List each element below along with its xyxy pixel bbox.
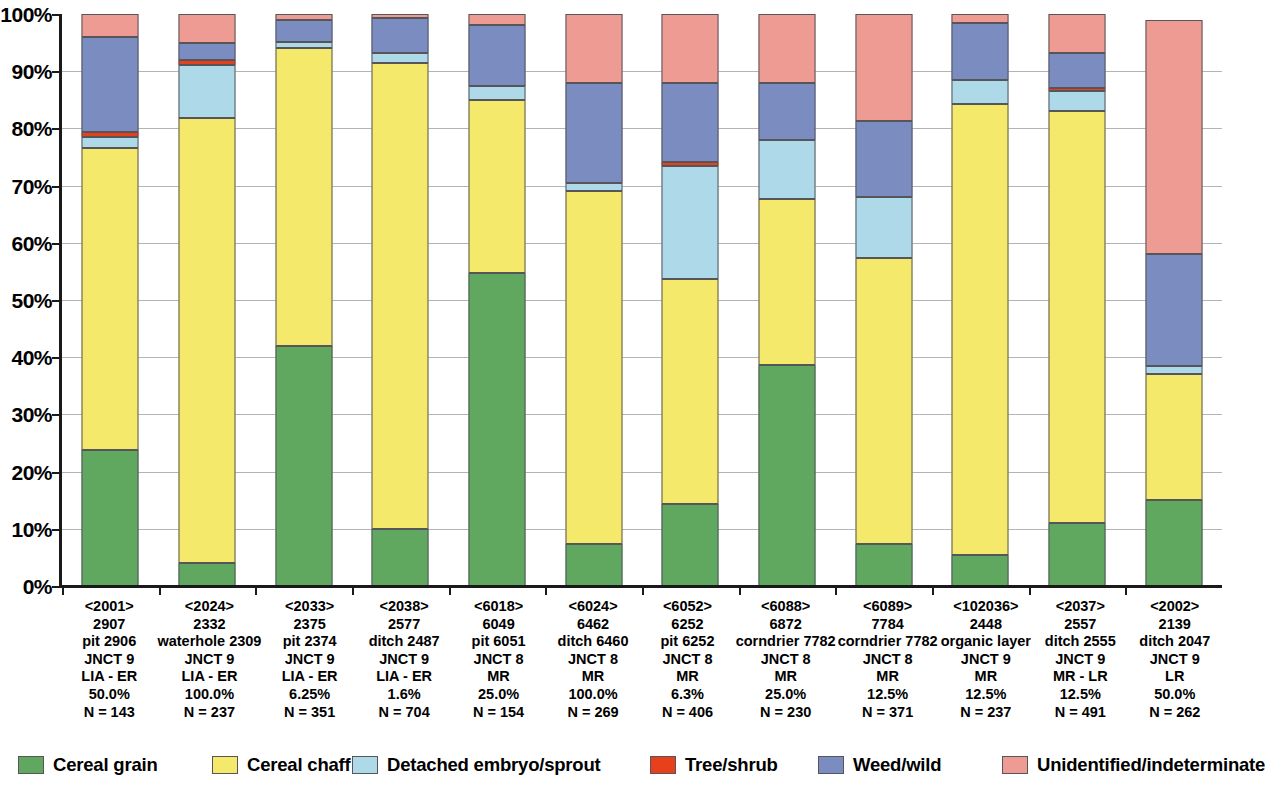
bar-slot xyxy=(642,14,739,586)
bar-segment[interactable] xyxy=(1145,254,1202,366)
y-tick-label: 0% xyxy=(23,576,52,597)
bar-segment[interactable] xyxy=(275,20,332,42)
bar-segment[interactable] xyxy=(1049,111,1106,523)
bar-segment[interactable] xyxy=(82,37,139,133)
bar-slot xyxy=(545,14,642,586)
bar-segment[interactable] xyxy=(82,450,139,586)
bar-segment[interactable] xyxy=(1145,500,1202,586)
bar-segment[interactable] xyxy=(565,14,622,83)
bar-segment[interactable] xyxy=(1145,374,1202,500)
bar-segment[interactable] xyxy=(179,118,236,564)
bar-segment[interactable] xyxy=(179,43,236,61)
x-axis-label-sample: <102036> xyxy=(940,598,1032,616)
bar-segment[interactable] xyxy=(82,137,139,148)
bar-segment[interactable] xyxy=(1145,20,1202,255)
bar-segment[interactable] xyxy=(179,14,236,43)
x-axis-label-fraction: 50.0% xyxy=(63,686,155,704)
x-axis-label-count: N = 230 xyxy=(736,704,836,722)
x-axis-label-context-number: 2577 xyxy=(358,616,450,634)
stacked-bar[interactable] xyxy=(179,14,236,586)
bar-segment[interactable] xyxy=(952,555,1009,586)
legend-label: Detached embryo/sprout xyxy=(387,754,601,776)
legend-item[interactable]: Weed/wild xyxy=(818,754,941,776)
bar-segment[interactable] xyxy=(372,63,429,530)
x-axis-label-feature: pit 6051 xyxy=(452,633,544,651)
bar-segment[interactable] xyxy=(179,65,236,118)
stacked-bar[interactable] xyxy=(565,14,622,586)
bar-segment[interactable] xyxy=(952,104,1009,554)
bar-segment[interactable] xyxy=(759,140,816,199)
bar-segment[interactable] xyxy=(372,18,429,53)
x-axis-label-period: LIA - ER xyxy=(63,668,155,686)
legend-item[interactable]: Tree/shrub xyxy=(650,754,778,776)
bar-segment[interactable] xyxy=(1049,53,1106,87)
bar-segment[interactable] xyxy=(1049,523,1106,586)
bar-segment[interactable] xyxy=(469,100,526,273)
stacked-bar[interactable] xyxy=(662,14,719,586)
bar-segment[interactable] xyxy=(1145,366,1202,375)
bar-slot xyxy=(255,14,352,586)
bar-segment[interactable] xyxy=(855,121,912,197)
bar-segment[interactable] xyxy=(275,48,332,345)
bar-segment[interactable] xyxy=(1049,91,1106,111)
bar-segment[interactable] xyxy=(469,273,526,586)
x-axis-label-feature: ditch 2555 xyxy=(1034,633,1126,651)
bar-segment[interactable] xyxy=(952,23,1009,80)
x-axis-label-fraction: 25.0% xyxy=(452,686,544,704)
stacked-bar[interactable] xyxy=(1049,14,1106,586)
bar-segment[interactable] xyxy=(82,14,139,37)
stacked-bar[interactable] xyxy=(82,14,139,586)
bar-segment[interactable] xyxy=(855,14,912,121)
bar-segment[interactable] xyxy=(759,14,816,83)
bar-segment[interactable] xyxy=(1049,14,1106,53)
bar-segment[interactable] xyxy=(179,563,236,586)
x-axis-label-period: MR xyxy=(452,668,544,686)
x-axis-label-context-number: 6872 xyxy=(736,616,836,634)
bar-segment[interactable] xyxy=(469,86,526,100)
x-axis-label-period: LIA - ER xyxy=(157,668,261,686)
bar-segment[interactable] xyxy=(565,544,622,586)
bar-segment[interactable] xyxy=(565,183,622,192)
stacked-bar[interactable] xyxy=(372,14,429,586)
bar-segment[interactable] xyxy=(662,504,719,586)
bar-segment[interactable] xyxy=(855,258,912,543)
stacked-bar[interactable] xyxy=(952,14,1009,586)
bar-segment[interactable] xyxy=(82,148,139,449)
x-axis-label-site: JNCT 8 xyxy=(736,651,836,669)
x-axis-label-count: N = 269 xyxy=(547,704,639,722)
x-axis-label-site: JNCT 9 xyxy=(1129,651,1221,669)
x-axis-label-sample: <6052> xyxy=(641,598,733,616)
bar-segment[interactable] xyxy=(855,197,912,258)
y-tick-label: 10% xyxy=(11,518,52,539)
bar-segment[interactable] xyxy=(662,166,719,279)
bar-segment[interactable] xyxy=(469,14,526,25)
bar-segment[interactable] xyxy=(565,191,622,543)
x-axis-label-feature: pit 2374 xyxy=(263,633,355,651)
bar-segment[interactable] xyxy=(952,80,1009,105)
legend-item[interactable]: Cereal grain xyxy=(18,754,158,776)
legend-item[interactable]: Detached embryo/sprout xyxy=(352,754,601,776)
stacked-bar[interactable] xyxy=(275,14,332,586)
y-tick-mark xyxy=(52,529,60,531)
bar-segment[interactable] xyxy=(662,279,719,504)
bar-segment[interactable] xyxy=(565,83,622,183)
stacked-bar[interactable] xyxy=(469,14,526,586)
bar-segment[interactable] xyxy=(759,365,816,586)
stacked-bar[interactable] xyxy=(1145,14,1202,586)
legend-item[interactable]: Unidentified/indeterminate xyxy=(1002,754,1265,776)
legend-item[interactable]: Cereal chaff xyxy=(212,754,351,776)
bar-segment[interactable] xyxy=(662,14,719,83)
bar-segment[interactable] xyxy=(372,529,429,586)
bar-segment[interactable] xyxy=(469,25,526,85)
x-axis-label-sample: <2037> xyxy=(1034,598,1126,616)
bar-segment[interactable] xyxy=(855,544,912,586)
bar-segment[interactable] xyxy=(952,14,1009,23)
bar-segment[interactable] xyxy=(662,83,719,163)
stacked-bar[interactable] xyxy=(855,14,912,586)
bar-segment[interactable] xyxy=(759,199,816,365)
bar-segment[interactable] xyxy=(759,83,816,140)
stacked-bar[interactable] xyxy=(759,14,816,586)
bar-segment[interactable] xyxy=(275,346,332,586)
x-axis-label-period: MR xyxy=(641,668,733,686)
bar-segment[interactable] xyxy=(372,53,429,62)
